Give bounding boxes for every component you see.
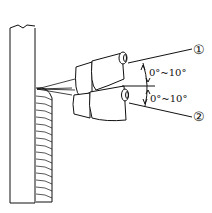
upper-angle-label: 0°~10° xyxy=(149,68,186,78)
arrow-top xyxy=(141,65,145,70)
vertical-plate xyxy=(10,25,35,203)
leader-line-1 xyxy=(128,49,192,63)
arc-lines xyxy=(37,79,75,95)
lower-angle-label: 0°~10° xyxy=(150,94,187,104)
position-label-2: ② xyxy=(193,110,205,123)
weld-ripples xyxy=(36,96,52,198)
arrow-bottom xyxy=(143,99,147,104)
welding-diagram xyxy=(0,0,212,213)
leader-line-2 xyxy=(129,103,192,117)
position-label-1: ① xyxy=(193,43,205,56)
